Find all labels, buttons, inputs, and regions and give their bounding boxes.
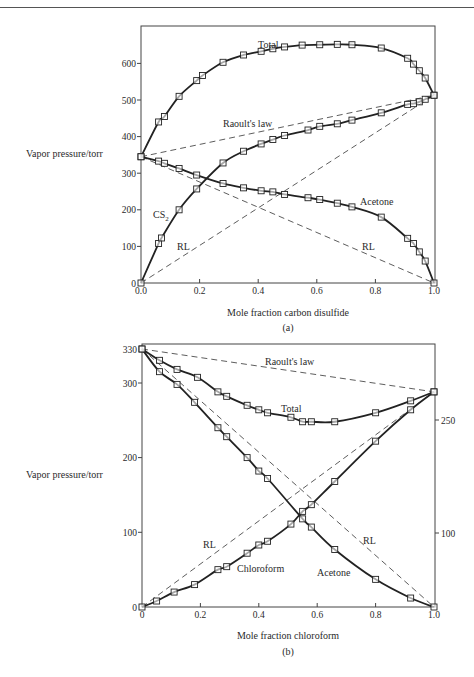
data-point-marker: [408, 398, 414, 404]
y-tick-label: 300: [122, 169, 137, 179]
data-point-marker: [308, 419, 314, 425]
data-point-marker: [174, 366, 180, 372]
data-point-marker: [431, 92, 437, 98]
data-point-marker: [332, 419, 338, 425]
data-point-marker: [215, 389, 221, 395]
data-point-marker: [241, 185, 247, 191]
data-point-marker: [408, 407, 414, 413]
label-raoult-a: Raoult's law: [223, 118, 273, 129]
data-point-marker: [308, 502, 314, 508]
data-point-marker: [256, 468, 262, 474]
chart-a: 0.00.20.40.60.81.00100200300400500600 To…: [26, 26, 440, 334]
data-point-marker: [405, 55, 411, 61]
data-point-marker: [244, 455, 250, 461]
y-tick-label: 0: [131, 279, 136, 289]
data-point-marker: [194, 186, 200, 192]
data-point-marker: [220, 59, 226, 65]
data-point-marker: [194, 172, 200, 178]
data-point-marker: [157, 357, 163, 363]
y-tick-label: 330: [123, 345, 138, 355]
data-point-marker: [282, 191, 288, 197]
data-point-marker: [220, 180, 226, 186]
data-point-marker: [215, 567, 221, 573]
panel-label-b: (b): [282, 646, 294, 658]
data-point-marker: [157, 369, 163, 375]
data-point-marker: [349, 42, 355, 48]
y-tick-label: 500: [122, 96, 137, 106]
data-point-marker: [431, 280, 437, 286]
data-point-marker: [378, 110, 384, 116]
data-point-marker: [265, 538, 271, 544]
label-total-a: Total: [258, 39, 279, 50]
data-point-marker: [334, 121, 340, 127]
data-point-marker: [288, 414, 294, 420]
data-point-marker: [300, 419, 306, 425]
data-point-marker: [270, 137, 276, 143]
data-point-marker: [138, 280, 144, 286]
data-point-marker: [256, 407, 262, 413]
data-point-marker: [299, 42, 305, 48]
raoult-law-line: [141, 95, 434, 283]
data-point-marker: [194, 78, 200, 84]
data-point-marker: [265, 410, 271, 416]
y2-tick-label: 100: [441, 529, 456, 539]
x-tick-label: 0.0: [135, 286, 147, 296]
data-point-marker: [241, 148, 247, 154]
x-tick-label: 0.8: [370, 610, 382, 620]
data-point-marker: [431, 604, 437, 610]
x-tick-label: 0.6: [311, 610, 323, 620]
y-tick-label: 0: [132, 603, 137, 613]
data-point-marker: [220, 160, 226, 166]
label-acetone-b: Acetone: [317, 567, 351, 578]
axis-ticks-b: 00.20.40.60.81.00100200300330100250: [123, 345, 456, 621]
data-point-marker: [139, 604, 145, 610]
data-point-marker: [317, 197, 323, 203]
data-point-marker: [176, 93, 182, 99]
data-point-marker: [258, 188, 264, 194]
x-tick-label: 1.0: [428, 286, 440, 296]
x-tick-label: 0.2: [194, 286, 206, 296]
axis-ticks-a: 0.00.20.40.60.81.00100200300400500600: [122, 59, 440, 296]
data-point-marker: [270, 189, 276, 195]
data-point-marker: [161, 113, 167, 119]
data-point-marker: [300, 516, 306, 522]
data-point-marker: [416, 249, 422, 255]
chart-b: 00.20.40.60.81.00100200300330100250 Raou…: [26, 344, 456, 658]
data-point-marker: [332, 479, 338, 485]
data-point-marker: [176, 165, 182, 171]
data-point-marker: [416, 68, 422, 74]
data-point-marker: [224, 393, 230, 399]
x-tick-label: 0.4: [252, 286, 264, 296]
data-point-marker: [241, 52, 247, 58]
data-point-marker: [300, 508, 306, 514]
x-tick-label: 0.4: [253, 610, 265, 620]
label-rl-left-b: RL: [203, 539, 216, 550]
data-point-marker: [282, 133, 288, 139]
data-point-marker: [317, 42, 323, 48]
y-tick-label: 300: [123, 379, 138, 389]
label-rl-right-b: RL: [363, 535, 376, 546]
y-tick-label: 400: [122, 132, 137, 142]
data-point-marker: [176, 207, 182, 213]
data-point-marker: [244, 402, 250, 408]
data-point-marker: [282, 44, 288, 50]
data-point-marker: [171, 589, 177, 595]
data-point-marker: [194, 374, 200, 380]
x-tick-label: 0.2: [194, 610, 206, 620]
label-rl-right-a: RL: [362, 241, 375, 252]
y-tick-label: 100: [122, 242, 137, 252]
data-point-marker: [139, 346, 145, 352]
raoult-lines-b: [142, 349, 434, 607]
data-point-marker: [349, 204, 355, 210]
figure: 0.00.20.40.60.81.00100200300400500600 To…: [0, 0, 474, 677]
y-tick-label: 600: [122, 59, 137, 69]
label-raoult-b: Raoult's law: [265, 356, 315, 367]
data-point-marker: [332, 546, 338, 552]
y-axis-label-a: Vapor pressure/torr: [26, 148, 104, 159]
y2-tick-label: 250: [441, 416, 456, 426]
data-point-marker: [422, 96, 428, 102]
x-tick-label: 0.8: [369, 286, 381, 296]
data-point-marker: [138, 154, 144, 160]
data-point-marker: [244, 550, 250, 556]
data-point-marker: [373, 576, 379, 582]
